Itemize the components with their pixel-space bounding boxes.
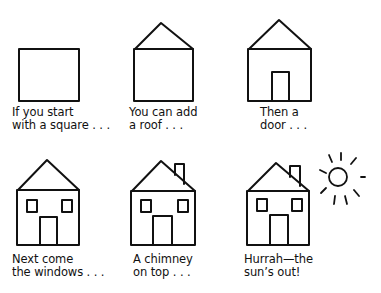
caption-line: with a square . . .	[12, 119, 110, 132]
sun-icon	[320, 153, 365, 204]
step2-caption: You can adda roof . . .	[129, 106, 197, 132]
step5-caption: A chimneyon top . . .	[133, 253, 193, 279]
step6-caption: Hurrah—thesun’s out!	[244, 253, 313, 279]
step1-square-icon	[19, 49, 79, 101]
house-drawing-steps	[0, 0, 381, 293]
step5-house-chimney-icon	[131, 161, 195, 245]
step2-house-roof-icon	[134, 23, 193, 101]
step6-house-sun-icon	[247, 163, 309, 245]
step3-house-door-icon	[248, 20, 311, 101]
caption-line: on top . . .	[133, 266, 193, 279]
caption-line: a roof . . .	[129, 119, 197, 132]
step3-caption: Then adoor . . .	[260, 106, 307, 132]
step1-caption: If you startwith a square . . .	[12, 106, 110, 132]
caption-line: sun’s out!	[244, 266, 313, 279]
caption-line: the windows . . .	[12, 266, 104, 279]
step4-house-windows-icon	[17, 160, 79, 245]
caption-line: door . . .	[260, 119, 307, 132]
step4-caption: Next comethe windows . . .	[12, 253, 104, 279]
